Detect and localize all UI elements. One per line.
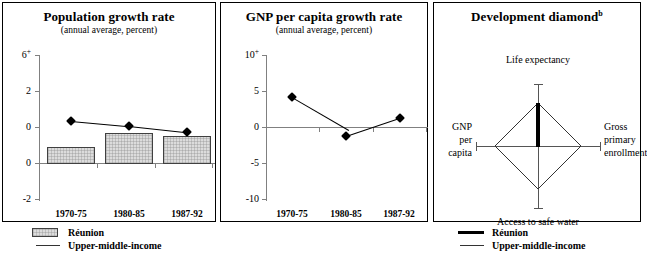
y-label-minus2: -2 <box>3 194 31 204</box>
diamond-plot-area: Life expectancy Access to safe water GNP… <box>434 3 642 223</box>
y-label-0-gnp: 0 <box>223 122 259 132</box>
bar-1980-85 <box>105 133 153 164</box>
diamond-label-enroll-line1: Gross <box>604 120 644 133</box>
legend-population: Réunion Upper-middle-income <box>28 226 214 252</box>
diamond-label-gnp-line3: capita <box>434 146 472 159</box>
y-tick-5 <box>262 91 267 92</box>
y-tick-2 <box>35 127 40 128</box>
x-tick-1 <box>97 163 98 168</box>
legend-row-upper-middle-income-right: Upper-middle-income <box>452 239 642 252</box>
bar-1970-75 <box>47 147 95 164</box>
y-tick-0 <box>35 163 40 164</box>
x-label-1970-75: 1970-75 <box>41 209 101 220</box>
diamond-label-gnp-per-capita: GNP per capita <box>434 120 472 159</box>
y-tick-minus5 <box>262 163 267 164</box>
gnp-data-point-1987-92 <box>395 113 405 123</box>
legend-swatch-line-icon <box>36 245 60 246</box>
panel-development-diamond: Development diamondb Life expectancy Acc… <box>433 2 641 222</box>
y-tick-minus2 <box>35 199 40 200</box>
diamond-label-enroll-line3: enrollment <box>604 146 644 159</box>
bar-1987-92 <box>163 136 211 164</box>
legend-row-reunion-left: Réunion <box>28 226 214 239</box>
y-label-5: 5 <box>223 86 259 96</box>
x-tick-3 <box>212 163 213 168</box>
y-label-zero: 0 <box>3 158 31 168</box>
line-segment-1 <box>71 121 129 127</box>
data-point-1980-85 <box>124 121 134 131</box>
legend-label-upper-middle-income-left: Upper-middle-income <box>68 239 162 252</box>
y-tick-4 <box>35 91 40 92</box>
x-axis-gnp <box>266 127 428 128</box>
legend-swatch-box-icon <box>32 228 58 237</box>
gnp-x-label-1980-85: 1980-85 <box>317 209 375 220</box>
legend-swatch-thin-line-icon <box>460 245 484 246</box>
legend-diamond: Réunion Upper-middle-income <box>452 226 642 252</box>
legend-label-reunion-right: Réunion <box>492 226 528 239</box>
diamond-label-life-expectancy: Life expectancy <box>458 53 618 66</box>
data-point-1970-75 <box>66 116 76 126</box>
y-axis-population <box>39 55 40 201</box>
y-tick-minus10 <box>262 199 267 200</box>
y-label-minus5: -5 <box>223 158 259 168</box>
x-tick-gnp-1 <box>319 127 320 132</box>
legend-label-reunion-left: Réunion <box>68 226 104 239</box>
legend-label-upper-middle-income-right: Upper-middle-income <box>492 239 586 252</box>
y-label-10: 10+ <box>223 50 259 60</box>
gnp-x-label-1987-92: 1987-92 <box>370 209 428 220</box>
diamond-label-gross-primary-enrollment: Gross primary enrollment <box>604 120 644 159</box>
x-label-1980-85: 1980-85 <box>99 209 159 220</box>
y-axis-gnp <box>266 55 267 201</box>
legend-swatch-thick-line-icon <box>458 231 484 234</box>
plot-area-population: 6+ 2 0 0 -2 1970-75 1980-85 1987-92 <box>3 3 217 223</box>
diamond-label-gnp-line1: GNP <box>434 120 472 133</box>
plot-area-gnp: 10+ 5 0 -5 -10 1970-75 1980-85 1987-92 <box>221 3 429 223</box>
y-tick-6 <box>35 55 40 56</box>
diamond-label-gnp-line2: per <box>434 133 472 146</box>
y-label-minus10: -10 <box>223 194 259 204</box>
y-label-2: 0 <box>3 122 31 132</box>
x-tick-gnp-3 <box>426 127 427 132</box>
y-tick-10 <box>262 55 267 56</box>
gnp-data-point-1980-85 <box>341 131 351 141</box>
legend-row-reunion-right: Réunion <box>452 226 642 239</box>
panel-population-growth-rate: Population growth rate (annual average, … <box>2 2 216 222</box>
x-label-1987-92: 1987-92 <box>157 209 217 220</box>
diamond-label-enroll-line2: primary <box>604 133 644 146</box>
gnp-x-label-1970-75: 1970-75 <box>263 209 321 220</box>
panel-gnp-growth-rate: GNP per capita growth rate (annual avera… <box>220 2 428 222</box>
y-label-4: 2 <box>3 86 31 96</box>
reunion-life-expectancy-bar <box>536 103 540 147</box>
y-tick-0-gnp <box>262 127 267 128</box>
x-tick-2 <box>155 163 156 168</box>
y-label-6: 6+ <box>3 50 31 60</box>
legend-row-upper-middle-income-left: Upper-middle-income <box>28 239 214 252</box>
